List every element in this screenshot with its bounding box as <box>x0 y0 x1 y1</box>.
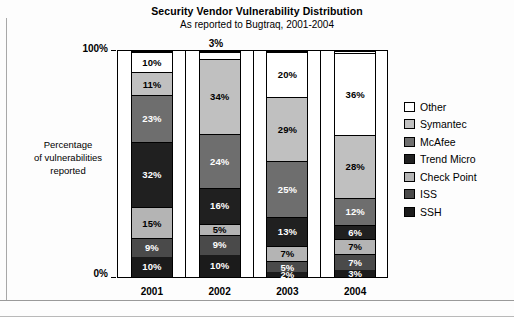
stacked-bar-2004[interactable]: 3%7%7%6%12%28%36% <box>334 51 376 277</box>
bar-segment-2001-other[interactable]: 10% <box>132 52 172 73</box>
bar-segment-2004-check-point[interactable]: 7% <box>335 239 375 255</box>
bar-segment-2002-symantec[interactable]: 34% <box>200 59 240 135</box>
bar-segment-label: 7% <box>281 249 295 259</box>
bar-segment-2003-mcafee[interactable]: 25% <box>267 161 307 217</box>
legend-item-symantec[interactable]: Symantec <box>404 116 477 134</box>
stacked-bar-2003[interactable]: 2%5%7%13%25%29%20% <box>266 51 308 277</box>
bar-segment-label: 7% <box>348 258 362 268</box>
bar-segment-label: 9% <box>213 240 227 250</box>
bar-segment-2004-iss[interactable]: 7% <box>335 254 375 270</box>
bar-segment-2004-other[interactable]: 36% <box>335 53 375 134</box>
bar-segment-label: 12% <box>346 207 365 217</box>
bar-segment-external-label: 3% <box>209 38 223 49</box>
bar-segment-label: 28% <box>346 162 365 172</box>
bar-segment-2003-check-point[interactable]: 7% <box>267 246 307 262</box>
bar-segment-2001-mcafee[interactable]: 23% <box>132 95 172 142</box>
bar-segment-2004-ssh[interactable]: 3% <box>335 270 375 277</box>
legend-swatch-icon <box>404 102 415 112</box>
bar-segment-label: 10% <box>142 262 161 272</box>
bar-segment-label: 25% <box>278 185 297 195</box>
stacked-bar-2002[interactable]: 10%9%5%16%24%34%3% <box>199 51 241 277</box>
bar-segment-2003-ssh[interactable]: 2% <box>267 272 307 277</box>
bar-segment-2002-check-point[interactable]: 5% <box>200 224 240 235</box>
y-tick-label-0: 0% <box>64 268 108 279</box>
bar-segment-label: 5% <box>213 225 227 235</box>
bar-segment-label: 11% <box>143 80 162 90</box>
y-axis-label-line-1: Percentage <box>22 139 114 152</box>
stacked-bar-2001[interactable]: 10%9%15%32%23%11%10% <box>131 51 173 277</box>
legend-swatch-icon <box>404 119 415 129</box>
legend-item-mcafee[interactable]: McAfee <box>404 133 477 151</box>
bar-segment-2002-other[interactable]: 3% <box>200 52 240 59</box>
legend-item-label: Symantec <box>420 119 467 130</box>
chart-title: Security Vendor Vulnerability Distributi… <box>0 5 514 17</box>
bar-segment-label: 9% <box>145 243 159 253</box>
page-left-rule <box>6 18 7 300</box>
legend-item-label: McAfee <box>420 137 456 148</box>
bar-segment-2002-iss[interactable]: 9% <box>200 235 240 255</box>
bar-segment-label: 32% <box>142 170 161 180</box>
bar-segment-2002-mcafee[interactable]: 24% <box>200 134 240 187</box>
y-axis-label-line-3: reported <box>22 165 114 178</box>
bar-segment-label: 34% <box>210 92 229 102</box>
y-axis-label: Percentage of vulnerabilities reported <box>22 139 114 177</box>
bar-segment-label: 24% <box>210 157 229 167</box>
x-tick-label-2003: 2003 <box>257 286 317 297</box>
x-tick-label-2002: 2002 <box>190 286 250 297</box>
bar-segment-label: 7% <box>348 242 362 252</box>
bar-segment-label: 10% <box>210 261 229 271</box>
legend-swatch-icon <box>404 172 415 182</box>
legend-item-ssh[interactable]: SSH <box>404 203 477 221</box>
bar-segment-2001-iss[interactable]: 9% <box>132 238 172 256</box>
y-tick-mark-0 <box>111 277 116 278</box>
bar-segment-2004-symantec[interactable]: 28% <box>335 135 375 198</box>
legend-item-label: Check Point <box>420 172 477 183</box>
legend-item-trend-micro[interactable]: Trend Micro <box>404 151 477 169</box>
bar-segment-2003-trend-micro[interactable]: 13% <box>267 217 307 246</box>
bar-segment-label: 36% <box>346 90 365 100</box>
legend-item-label: ISS <box>420 189 437 200</box>
legend-swatch-icon <box>404 207 415 217</box>
bar-segment-2004-trend-micro[interactable]: 6% <box>335 225 375 239</box>
bar-segment-label: 20% <box>278 70 297 80</box>
bar-segment-2002-trend-micro[interactable]: 16% <box>200 188 240 224</box>
chart-subtitle: As reported to Bugtraq, 2001-2004 <box>0 19 514 31</box>
bar-segment-2001-trend-micro[interactable]: 32% <box>132 142 172 207</box>
bar-segment-2003-iss[interactable]: 5% <box>267 261 307 272</box>
y-tick-label-100: 100% <box>64 43 108 54</box>
legend-swatch-icon <box>404 154 415 164</box>
bar-segment-label: 10% <box>142 58 161 68</box>
chart-title-block: Security Vendor Vulnerability Distributi… <box>0 5 514 31</box>
bar-segment-label: 5% <box>281 263 295 273</box>
bar-segment-2003-symantec[interactable]: 29% <box>267 97 307 162</box>
bar-segment-label: 16% <box>210 201 229 211</box>
bar-segment-2004-mcafee[interactable]: 12% <box>335 198 375 225</box>
legend-item-iss[interactable]: ISS <box>404 186 477 204</box>
y-tick-mark-100 <box>111 50 116 51</box>
x-tick-label-2001: 2001 <box>122 286 182 297</box>
bar-segment-label: 23% <box>142 114 161 124</box>
bar-segment-2001-symantec[interactable]: 11% <box>132 72 172 95</box>
bar-segment-label: 15% <box>142 219 161 229</box>
bar-segment-label: 6% <box>348 228 362 238</box>
legend-item-label: Other <box>420 102 446 113</box>
legend-swatch-icon <box>404 137 415 147</box>
legend-item-label: Trend Micro <box>420 154 476 165</box>
bar-segment-label: 29% <box>278 125 297 135</box>
chart-legend: OtherSymantecMcAfeeTrend MicroCheck Poin… <box>404 98 477 221</box>
legend-item-check-point[interactable]: Check Point <box>404 168 477 186</box>
y-axis-label-line-2: of vulnerabilities <box>22 152 114 165</box>
bar-segment-2001-check-point[interactable]: 15% <box>132 207 172 238</box>
legend-item-label: SSH <box>420 207 442 218</box>
legend-swatch-icon <box>404 189 415 199</box>
bar-segment-2001-ssh[interactable]: 10% <box>132 257 172 277</box>
page-bottom-rule <box>0 300 514 301</box>
bar-segment-2002-ssh[interactable]: 10% <box>200 255 240 277</box>
legend-item-other[interactable]: Other <box>404 98 477 116</box>
bar-segment-label: 3% <box>348 269 362 279</box>
x-tick-label-2004: 2004 <box>325 286 385 297</box>
bar-segment-2003-other[interactable]: 20% <box>267 52 307 97</box>
bar-segment-label: 13% <box>278 227 297 237</box>
